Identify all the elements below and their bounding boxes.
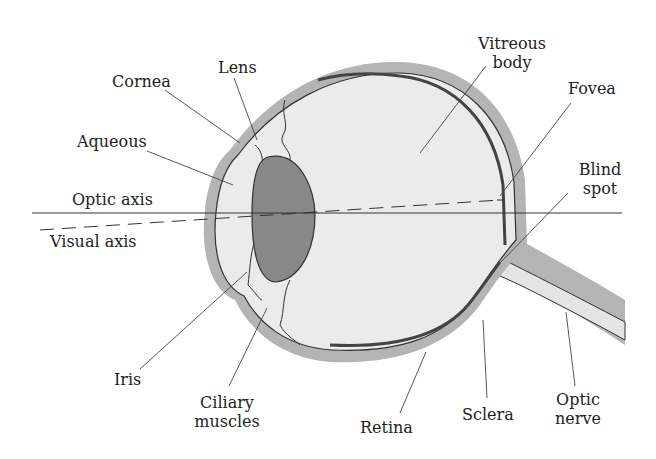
label-cornea: Cornea: [112, 72, 171, 91]
label-sclera: Sclera: [462, 405, 514, 424]
label-optic-axis: Optic axis: [72, 190, 153, 209]
label-optic-nerve: Optic nerve: [548, 390, 608, 428]
eye-diagram: Cornea Lens Aqueous Optic axis Visual ax…: [0, 0, 656, 459]
label-aqueous: Aqueous: [77, 132, 147, 151]
label-fovea: Fovea: [568, 79, 616, 98]
label-ciliary-line2: muscles: [184, 412, 270, 431]
label-ciliary-muscles: Ciliary muscles: [184, 393, 270, 431]
label-blind-line1: Blind: [570, 160, 630, 179]
label-iris: Iris: [114, 370, 141, 389]
label-vitreous-body: Vitreous body: [472, 34, 552, 72]
label-visual-axis: Visual axis: [50, 232, 137, 251]
label-retina: Retina: [360, 418, 413, 437]
label-optic-nerve-line1: Optic: [548, 390, 608, 409]
label-blind-line2: spot: [570, 179, 630, 198]
label-optic-nerve-line2: nerve: [548, 409, 608, 428]
label-blind-spot: Blind spot: [570, 160, 630, 198]
label-ciliary-line1: Ciliary: [184, 393, 270, 412]
label-vitreous-line2: body: [472, 53, 552, 72]
label-lens: Lens: [218, 58, 257, 77]
label-vitreous-line1: Vitreous: [472, 34, 552, 53]
